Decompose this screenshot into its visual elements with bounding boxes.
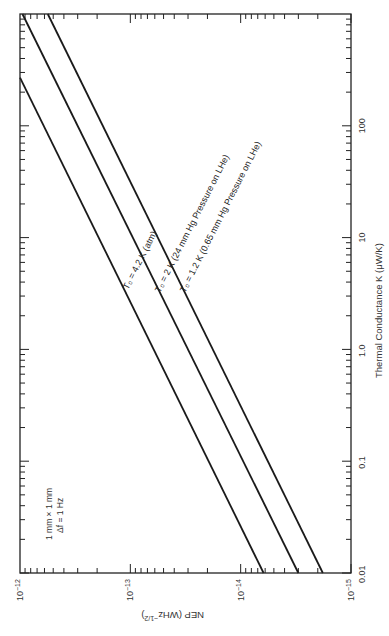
nep-tick-label: 10−14 — [235, 579, 246, 601]
nep-tick-label: 10−12 — [14, 579, 25, 601]
k-tick-label: 10 — [357, 233, 367, 243]
k-axis-label: Thermal Conductance K (μW/K) — [373, 243, 384, 378]
nep-tick-label: 10−15 — [345, 579, 356, 601]
annotation-bandwidth: Δf = 1 Hz — [55, 498, 65, 533]
annotation-detector-size: 1 mm × 1 mm — [44, 488, 54, 540]
nep-axis-label-close: ) — [141, 610, 144, 621]
series-lines — [20, 14, 323, 573]
nep-tick-label: 10−13 — [124, 579, 135, 601]
nep-axis-label-text: NEP (WHz — [158, 610, 204, 621]
k-tick-label: 100 — [357, 118, 367, 133]
k-tick-label: 0.01 — [357, 565, 367, 583]
series-label-4-2k: T₀ = 4.2 K (atm) — [121, 229, 159, 291]
nep-axis-label: NEP (WHz−1/2) — [141, 610, 204, 622]
nep-axis-label-exponent: −1/2 — [144, 615, 158, 622]
tick-labels: 10−1210−1310−1410−150.010.11.010100 — [14, 118, 367, 601]
k-tick-label: 0.1 — [357, 456, 367, 469]
nep-vs-thermal-conductance-chart: T₀ = 4.2 K (atm) T₀ = 2 K (24 mm Hg Pres… — [0, 0, 389, 636]
k-tick-label: 1.0 — [357, 344, 367, 357]
